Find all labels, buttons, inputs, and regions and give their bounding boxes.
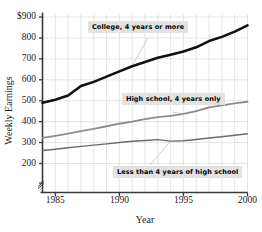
annotation-high-school: High school, 4 years only (122, 93, 225, 105)
x-tick-label: 2000 (228, 196, 262, 206)
y-tick-label: 200 (8, 159, 36, 169)
y-tick-label: 800 (8, 33, 36, 43)
annotation-college: College, 4 years or more (88, 21, 188, 33)
x-tick-label: 1995 (163, 196, 203, 206)
annotation-less-than-high-school: Less than 4 years of high school (113, 166, 242, 178)
y-tick-label: 400 (8, 117, 36, 127)
x-tick-label: 1990 (99, 196, 139, 206)
y-tick-label: 500 (8, 96, 36, 106)
y-tick-label: 300 (8, 138, 36, 148)
y-tick-label: $900 (8, 12, 36, 22)
x-tick-label: 1985 (35, 196, 75, 206)
y-tick-label: 600 (8, 75, 36, 85)
y-tick-label: 700 (8, 54, 36, 64)
chart-figure: Weekly Earnings Year College, 4 years or… (0, 0, 261, 232)
